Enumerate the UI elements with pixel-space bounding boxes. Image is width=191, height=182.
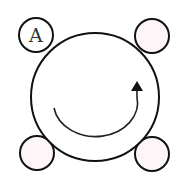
circle-label-a: A <box>28 24 43 46</box>
small-circle-top-right <box>135 19 169 53</box>
main-circle <box>31 33 159 161</box>
rotation-diagram: A <box>0 0 191 182</box>
